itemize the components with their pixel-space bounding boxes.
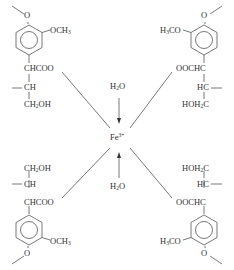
hydroxymethyl-label: CH2OH — [24, 164, 51, 174]
carboxylate-label: CHCOO — [24, 64, 54, 73]
methoxy-label: H3CO — [160, 237, 181, 247]
methine-label: HC — [197, 83, 209, 92]
hydroxymethyl-label: HOH2C — [182, 164, 209, 174]
benzene-ring-icon — [16, 215, 42, 245]
methine-label: CH — [24, 83, 36, 92]
carboxylate-label: CHCOO — [24, 198, 54, 207]
arrow-up-icon — [117, 152, 121, 158]
benzene-ring-icon — [16, 25, 42, 55]
ring-oxygen-label: O — [201, 11, 207, 20]
fe-complex-diagram: O OCH3 CHCOO CH CH2OH O H3CO OOCHC HC HO… — [0, 0, 234, 270]
methoxy-label: H3CO — [160, 26, 181, 36]
hydroxymethyl-label: HOH2C — [182, 100, 209, 110]
carboxylate-label: OOCHC — [176, 64, 206, 73]
water-top-label: H2O — [110, 82, 125, 92]
ring-oxygen-label: O — [24, 249, 30, 258]
methoxy-label: OCH3 — [50, 26, 71, 36]
water-bottom-label: H2O — [110, 182, 125, 192]
hydroxymethyl-label: CH2OH — [24, 100, 51, 110]
ring-oxygen-label: O — [24, 11, 30, 20]
benzene-ring-icon — [191, 215, 217, 245]
methine-label: CH — [24, 180, 36, 189]
methine-label: HC — [197, 180, 209, 189]
water-arrow-bottom — [117, 152, 121, 178]
iron-center-label: Fe3+ — [110, 133, 124, 142]
ring-oxygen-label: O — [201, 249, 207, 258]
methoxy-label: OCH3 — [50, 237, 71, 247]
carboxylate-label: OOCHC — [176, 198, 206, 207]
arrow-down-icon — [117, 118, 121, 124]
benzene-ring-icon — [191, 25, 217, 55]
water-arrow-top — [117, 98, 121, 124]
